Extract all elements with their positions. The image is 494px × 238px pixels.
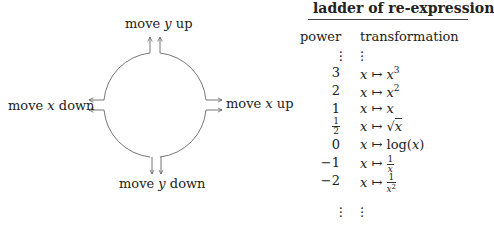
vdots-icon: ... (360, 203, 364, 215)
ladder-row-neg2: −2 x ↦ 1x2 (300, 173, 471, 191)
label-move-x-down: move x down (8, 98, 94, 113)
label-move-y-down: move y down (119, 176, 205, 191)
vdots-icon: ... (360, 47, 364, 59)
ladder-row-3: 3 x ↦ x3 (300, 65, 471, 83)
label-move-x-up: move x up (226, 96, 294, 111)
ladder-row-1: 1 x ↦ x (300, 101, 471, 119)
vdots-icon: ... (339, 47, 343, 59)
arc-bottom-right (160, 110, 206, 157)
title-rule (308, 19, 468, 20)
ladder-row-0: 0 x ↦ log(x) (300, 137, 471, 155)
ladder-row-vdots-top: ... ... (300, 47, 471, 65)
arc-top-left (104, 53, 150, 100)
arc-bottom-left (104, 110, 150, 157)
ladder-row-half: 12 x ↦ √x (300, 119, 471, 137)
ladder-row-neg1: −1 x ↦ 1x (300, 155, 471, 173)
label-move-y-up: move y up (125, 16, 193, 31)
ladder-row-vdots-bottom: ... ... (300, 203, 471, 221)
vdots-icon: ... (339, 203, 343, 215)
header-power: power (300, 29, 341, 44)
ladder-row-2: 2 x ↦ x2 (300, 83, 471, 101)
header-transformation: transformation (360, 29, 459, 44)
bulge-diagram (0, 0, 300, 238)
ladder-title: ladder of re-expression (313, 0, 494, 16)
arc-top-right (160, 53, 206, 100)
